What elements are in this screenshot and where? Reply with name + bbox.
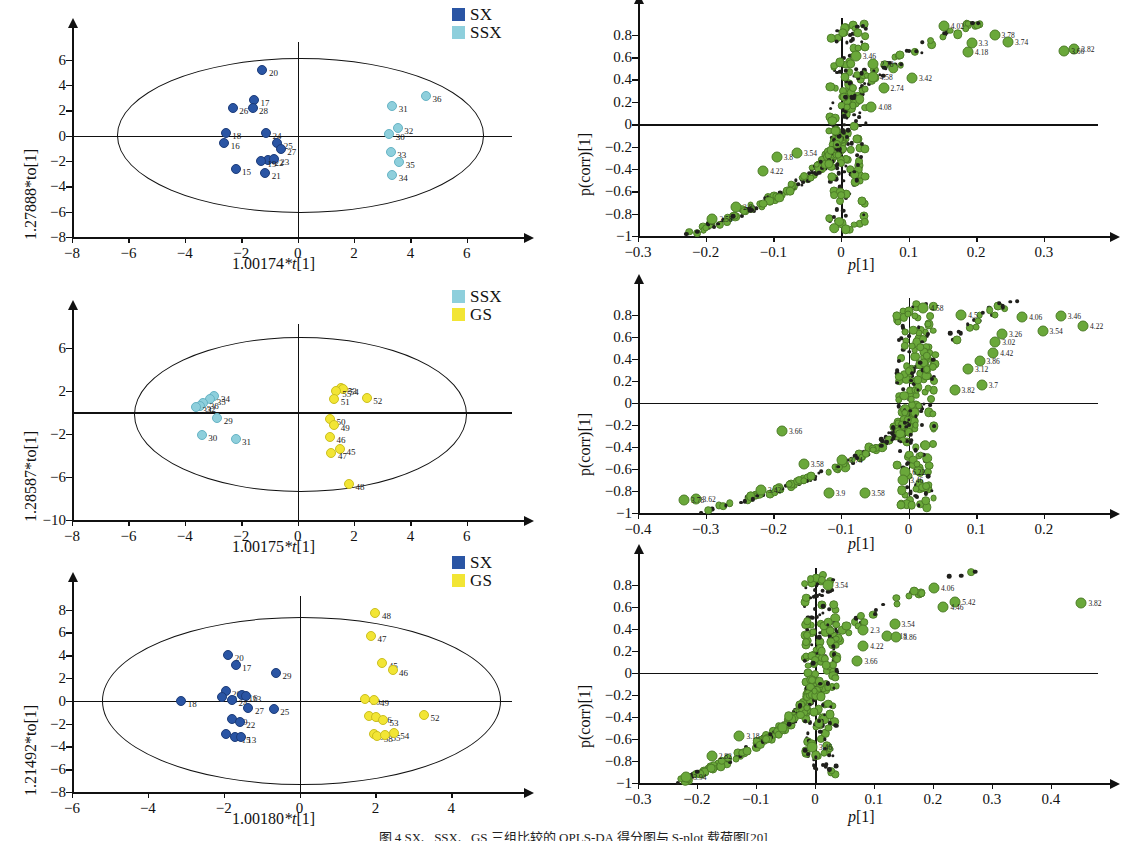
data-point-sx-25[interactable]: [269, 704, 279, 714]
x-tick-label: 2: [350, 528, 358, 545]
data-point-ssx-33[interactable]: [386, 147, 396, 157]
data-point-sx-29[interactable]: [271, 668, 281, 678]
data-point-gs-54[interactable]: [389, 728, 399, 738]
data-point-sx-22[interactable]: [235, 717, 245, 727]
legend-swatch-gs: [452, 574, 465, 587]
data-point-sx-17[interactable]: [231, 660, 241, 670]
loading-point-2.58[interactable]: [707, 213, 718, 224]
loading-point-3.42[interactable]: [756, 485, 767, 496]
loading-point-3.02[interactable]: [990, 336, 1001, 347]
loading-point-3.58[interactable]: [798, 458, 809, 469]
loading-point-3.18[interactable]: [734, 730, 745, 741]
data-point-sx-16[interactable]: [219, 138, 229, 148]
loading-point-4.08[interactable]: [866, 101, 877, 112]
data-point-gs-46[interactable]: [388, 665, 398, 675]
data-point-ssx-30[interactable]: [384, 129, 394, 139]
y-tick-label: −0.6: [592, 183, 632, 200]
data-point-sx-19[interactable]: [256, 156, 266, 166]
loading-point-3.66[interactable]: [852, 656, 863, 667]
loading-point-3.74[interactable]: [837, 455, 848, 466]
data-point-gs-47[interactable]: [366, 631, 376, 641]
loading-point-3.54[interactable]: [1037, 325, 1048, 336]
data-point-ssx-34[interactable]: [387, 170, 397, 180]
data-point-sx-27[interactable]: [276, 144, 286, 154]
loading-point-2.78[interactable]: [868, 59, 879, 70]
loading-point-3.46[interactable]: [850, 51, 861, 62]
data-point-sx-18[interactable]: [176, 696, 186, 706]
loading-point-3.82[interactable]: [949, 385, 960, 396]
data-point-gs-52[interactable]: [419, 710, 429, 720]
loading-point-3.78[interactable]: [989, 30, 1000, 41]
loading-point-4.18[interactable]: [963, 47, 974, 58]
loading-point-3.66[interactable]: [777, 426, 788, 437]
data-point-sx-28[interactable]: [248, 103, 258, 113]
data-point-ssx-36[interactable]: [421, 91, 431, 101]
loading-point-3.8[interactable]: [771, 151, 782, 162]
loading-point-3.78[interactable]: [679, 495, 690, 506]
data-point-sx-24[interactable]: [227, 695, 237, 705]
data-point-sx-27[interactable]: [243, 703, 253, 713]
data-point-ssx-29[interactable]: [212, 413, 222, 423]
data-point-gs-49[interactable]: [369, 695, 379, 705]
data-point-ssx-31[interactable]: [231, 434, 241, 444]
data-point-sx-26[interactable]: [228, 103, 238, 113]
data-point-gs-49[interactable]: [329, 420, 339, 430]
loading-point-3.54[interactable]: [822, 579, 833, 590]
data-point-gs-51[interactable]: [329, 394, 339, 404]
loading-point-3.86[interactable]: [891, 631, 902, 642]
data-point-sx-15[interactable]: [231, 164, 241, 174]
data-point-sx-13[interactable]: [236, 732, 246, 742]
data-point-sx-28[interactable]: [217, 692, 227, 702]
loading-point-3.54[interactable]: [791, 147, 802, 158]
loading-point-3.46[interactable]: [1055, 310, 1066, 321]
data-point-gs-52[interactable]: [362, 393, 372, 403]
loading-point-2.74[interactable]: [878, 82, 889, 93]
data-point-ssx-33[interactable]: [191, 402, 201, 412]
data-point-gs-45[interactable]: [377, 658, 387, 668]
loading-label-3.62: 3.62: [703, 495, 716, 504]
loading-point-4.06[interactable]: [929, 583, 940, 594]
loading-point-3.74[interactable]: [1003, 37, 1014, 48]
loading-point-4.46[interactable]: [938, 601, 949, 612]
loading-point-4.5[interactable]: [956, 309, 967, 320]
loading-point-4.22[interactable]: [758, 166, 769, 177]
loading-point-3.42[interactable]: [906, 72, 917, 83]
loading-point-3.66[interactable]: [1059, 45, 1070, 56]
data-point-sx-21[interactable]: [221, 729, 231, 739]
loading-point-3.9[interactable]: [823, 488, 834, 499]
loading-point-3.12[interactable]: [963, 363, 974, 374]
data-point-sx-18[interactable]: [221, 128, 231, 138]
data-point-sx-24[interactable]: [261, 128, 271, 138]
data-point-ssx-30[interactable]: [197, 430, 207, 440]
loading-point-3.94[interactable]: [681, 771, 692, 782]
data-point-gs-53[interactable]: [378, 715, 388, 725]
data-point-ssx-31[interactable]: [387, 101, 397, 111]
data-point-ssx-35[interactable]: [394, 157, 404, 167]
loading-point-dark: [887, 431, 891, 435]
loading-point-4.02[interactable]: [938, 21, 949, 32]
loading-point-3.7[interactable]: [976, 379, 987, 390]
loading-point-2.8[interactable]: [731, 202, 742, 213]
loading-point-3.54[interactable]: [889, 618, 900, 629]
loading-point-3.46[interactable]: [898, 474, 909, 485]
loading-point-3.46[interactable]: [806, 742, 817, 753]
loading-point-3.58[interactable]: [859, 487, 870, 498]
loading-point: [762, 735, 770, 743]
data-point-gs-48[interactable]: [344, 479, 354, 489]
data-point-gs-48[interactable]: [370, 608, 380, 618]
data-point-sx-20[interactable]: [257, 65, 267, 75]
loading-point-3.82[interactable]: [1076, 597, 1087, 608]
loading-point-dark: [834, 207, 838, 211]
loading-point-4.22[interactable]: [1078, 320, 1089, 331]
loading-point-2.3[interactable]: [858, 625, 869, 636]
loading-point-4.22[interactable]: [858, 640, 869, 651]
loading-point: [912, 421, 919, 428]
loading-point-4.06[interactable]: [1017, 312, 1028, 323]
data-point-sx-20[interactable]: [223, 650, 233, 660]
data-point-sx-21[interactable]: [260, 168, 270, 178]
data-point-gs-47[interactable]: [326, 448, 336, 458]
loading-point-2.82[interactable]: [706, 750, 717, 761]
data-point-gs-46[interactable]: [325, 432, 335, 442]
loading-point-4.58[interactable]: [918, 303, 929, 314]
loading-point-4.58[interactable]: [867, 71, 878, 82]
